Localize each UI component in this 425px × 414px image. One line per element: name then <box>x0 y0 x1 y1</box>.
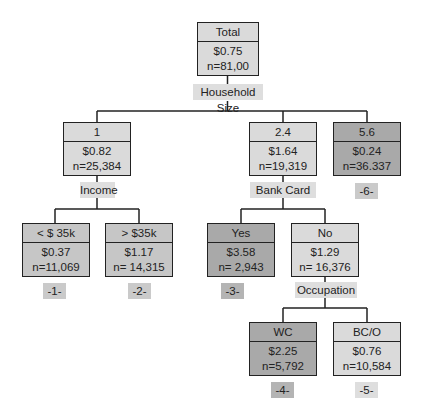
node-value: $0.24 <box>334 144 400 159</box>
tree-node-size-1: 1 $0.82 n=25,384 <box>63 122 131 176</box>
tree-node-total: Total $0.75 n=81,00 <box>197 22 259 76</box>
split-label-bank-card: Bank Card <box>250 182 316 198</box>
node-header: WC <box>250 323 316 342</box>
split-label-income: Income <box>80 182 115 198</box>
node-value: $0.37 <box>23 245 89 260</box>
node-count: n=11,069 <box>23 260 89 275</box>
node-count: n= 14,315 <box>106 260 172 275</box>
node-value: $3.58 <box>208 245 274 260</box>
node-value: $0.75 <box>198 44 258 59</box>
node-header: 2.4 <box>250 123 316 142</box>
node-count: n=36.337 <box>334 159 400 174</box>
node-header: 1 <box>64 123 130 142</box>
node-count: n=19,319 <box>250 159 316 174</box>
tree-node-occupation-wc: WC $2.25 n=5,792 <box>249 322 317 376</box>
node-value: $1.29 <box>292 245 358 260</box>
leaf-label-1: -1- <box>43 283 66 299</box>
split-label-occupation: Occupation <box>295 282 357 298</box>
tree-node-occupation-bco: BC/O $0.76 n=10,584 <box>333 322 401 376</box>
decision-tree: Total $0.75 n=81,00 Household Size 1 $0.… <box>0 0 425 414</box>
node-count: n=10,584 <box>334 359 400 374</box>
tree-node-size-2-4: 2.4 $1.64 n=19,319 <box>249 122 317 176</box>
node-value: $0.82 <box>64 144 130 159</box>
node-header: 5.6 <box>334 123 400 142</box>
leaf-label-5: -5- <box>355 382 378 398</box>
node-value: $1.64 <box>250 144 316 159</box>
node-count: n=81,00 <box>198 59 258 74</box>
leaf-label-2: -2- <box>128 283 151 299</box>
node-header: No <box>292 224 358 243</box>
node-value: $2.25 <box>250 344 316 359</box>
node-count: n= 16,376 <box>292 260 358 275</box>
node-count: n=25,384 <box>64 159 130 174</box>
tree-node-income-high: > $35k $1.17 n= 14,315 <box>105 223 173 277</box>
node-header: Total <box>198 23 258 42</box>
leaf-label-3: -3- <box>221 283 244 299</box>
split-label-household-size: Household Size <box>193 84 263 100</box>
node-header: < $ 35k <box>23 224 89 243</box>
leaf-label-4: -4- <box>271 382 294 398</box>
node-count: n=5,792 <box>250 359 316 374</box>
node-header: Yes <box>208 224 274 243</box>
tree-node-income-low: < $ 35k $0.37 n=11,069 <box>22 223 90 277</box>
tree-node-bank-card-no: No $1.29 n= 16,376 <box>291 223 359 277</box>
node-header: BC/O <box>334 323 400 342</box>
tree-node-size-5-6: 5.6 $0.24 n=36.337 <box>333 122 401 176</box>
node-value: $1.17 <box>106 245 172 260</box>
leaf-label-6: -6- <box>355 183 378 199</box>
tree-node-bank-card-yes: Yes $3.58 n= 2,943 <box>207 223 275 277</box>
node-value: $0.76 <box>334 344 400 359</box>
node-header: > $35k <box>106 224 172 243</box>
node-count: n= 2,943 <box>208 260 274 275</box>
